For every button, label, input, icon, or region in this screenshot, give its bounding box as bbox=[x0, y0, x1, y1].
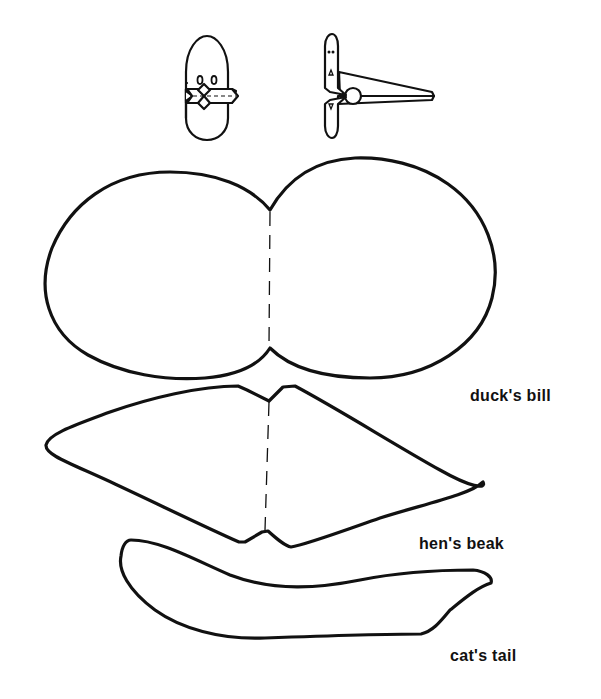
hen-beak-template bbox=[46, 386, 484, 547]
hen-beak-label: hen's beak bbox=[419, 535, 504, 553]
cat-tail-template bbox=[120, 540, 491, 638]
template-artwork bbox=[0, 0, 601, 699]
duck-bill-label: duck's bill bbox=[470, 387, 551, 405]
duck-bill-template bbox=[45, 158, 495, 379]
puppet-front-view-icon bbox=[186, 36, 238, 140]
activity-page: duck's bill hen's beak cat's tail bbox=[0, 0, 601, 699]
cat-tail-label: cat's tail bbox=[450, 647, 516, 665]
puppet-clothespin-icon bbox=[325, 34, 434, 138]
